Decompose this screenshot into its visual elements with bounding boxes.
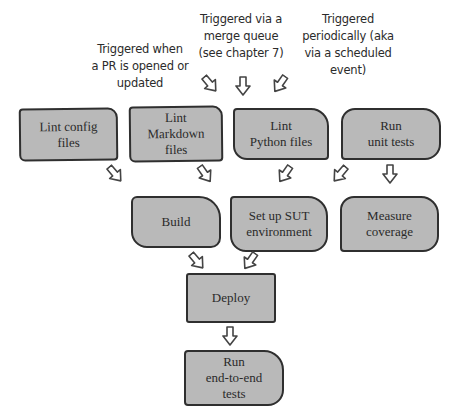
arrow-down-right-icon [102, 161, 129, 188]
arrow-down-left-icon [272, 161, 298, 188]
node-label: Run unit tests [368, 118, 415, 150]
node-run-end-to-end-tests: Run end-to-end tests [184, 350, 284, 406]
annotation-merge-queue-trigger: Triggered via a merge queue (see chapter… [186, 11, 296, 62]
node-set-up-sut-environment: Set up SUT environment [230, 196, 328, 252]
node-label: Run end-to-end tests [206, 354, 262, 402]
node-label: Lint Markdown files [147, 110, 205, 159]
node-run-unit-tests: Run unit tests [341, 108, 441, 160]
arrow-down-right-icon [184, 248, 211, 275]
node-lint-markdown-files: Lint Markdown files [129, 106, 224, 163]
node-label: Set up SUT environment [246, 208, 312, 240]
node-lint-config-files: Lint config files [19, 107, 119, 161]
arrow-down-icon [234, 76, 252, 96]
node-deploy: Deploy [186, 273, 276, 323]
node-build: Build [131, 196, 221, 248]
node-label: Measure coverage [366, 208, 413, 240]
arrow-down-icon [381, 164, 399, 184]
node-label: Lint Python files [250, 118, 312, 150]
node-label: Lint config files [39, 118, 97, 151]
arrow-down-icon [221, 326, 239, 346]
arrow-down-left-icon [267, 71, 293, 98]
annotation-pr-trigger: Triggered when a PR is opened or updated [84, 41, 196, 92]
arrow-down-left-icon [327, 161, 354, 188]
arrow-down-right-icon [192, 161, 218, 188]
node-lint-python-files: Lint Python files [233, 108, 329, 160]
arrow-down-right-icon [197, 71, 224, 98]
node-label: Build [162, 214, 191, 230]
annotation-scheduled-trigger: Triggered periodically (aka via a schedu… [294, 11, 402, 79]
node-label: Deploy [212, 290, 250, 306]
node-measure-coverage: Measure coverage [340, 196, 439, 252]
